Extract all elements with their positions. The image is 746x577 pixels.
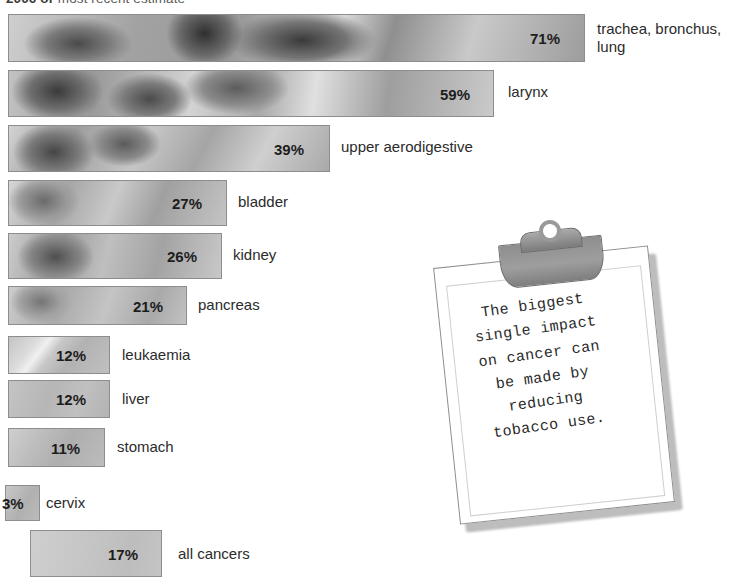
bar-value-label: 3%	[2, 496, 24, 511]
bar-value-label: 11%	[51, 441, 80, 456]
chart-canvas: 2006 or most recent estimate 71%trachea,…	[0, 0, 746, 577]
bar-value-label: 59%	[440, 87, 470, 102]
bar-category-label: larynx	[508, 83, 548, 101]
page-title-prefix: 2006 or	[6, 0, 54, 6]
bar-category-label: stomach	[117, 438, 174, 456]
bar-category-label: kidney	[233, 246, 276, 264]
bar-texture	[9, 15, 584, 61]
bar-value-label: 26%	[167, 249, 197, 264]
bar	[30, 530, 162, 577]
bar-value-label: 21%	[133, 299, 163, 314]
bar-texture	[31, 531, 161, 576]
bar-row: 27%bladder	[0, 180, 746, 226]
bar-category-label: leukaemia	[122, 346, 190, 364]
bar-category-label: all cancers	[178, 545, 250, 563]
bar-category-label: liver	[122, 390, 150, 408]
bar-value-label: 12%	[56, 348, 86, 363]
bar-value-label: 39%	[274, 142, 304, 157]
bar-value-label: 71%	[530, 31, 560, 46]
bar-category-label: pancreas	[198, 296, 260, 314]
bar-row: 71%trachea, bronchus, lung	[0, 14, 746, 62]
bar	[8, 14, 585, 62]
bar-category-label: cervix	[46, 494, 85, 512]
bar-category-label: upper aerodigestive	[341, 138, 473, 156]
bar-category-label: bladder	[238, 193, 288, 211]
bar	[8, 70, 494, 117]
page-title: 2006 or most recent estimate	[6, 0, 185, 6]
page-title-suffix: most recent estimate	[58, 0, 185, 6]
clipboard-note-text: The biggest single impact on cancer can …	[447, 283, 636, 451]
clipboard-callout: The biggest single impact on cancer can …	[442, 250, 682, 530]
bar-row: 39%upper aerodigestive	[0, 125, 746, 172]
bar-row: 17%all cancers	[0, 530, 746, 577]
bar-row: 59%larynx	[0, 70, 746, 117]
bar-texture	[9, 71, 493, 116]
bar-value-label: 27%	[172, 196, 202, 211]
bar-value-label: 12%	[56, 392, 86, 407]
bar-value-label: 17%	[108, 547, 138, 562]
bar-category-label: trachea, bronchus, lung	[597, 20, 721, 55]
